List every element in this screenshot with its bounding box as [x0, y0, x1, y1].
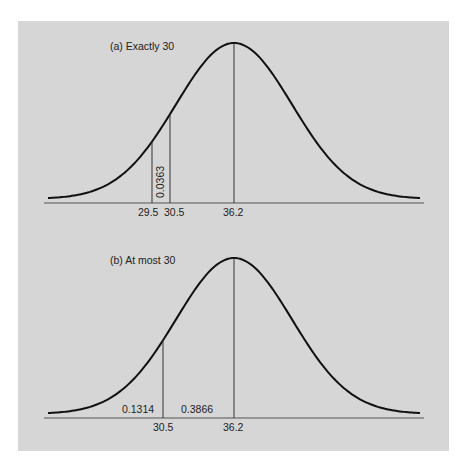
area-label-a: 0.0363 — [154, 166, 166, 198]
area-label-left: 0.1314 — [122, 403, 154, 415]
tick-label-30-5: 30.5 — [164, 206, 185, 218]
chart-a-title: (a) Exactly 30 — [110, 40, 174, 52]
tick-label-36-2-b: 36.2 — [223, 421, 244, 433]
chart-a: (a) Exactly 30 0.0363 29.5 30.5 36.2 — [44, 40, 424, 218]
normal-curves-figure: (a) Exactly 30 0.0363 29.5 30.5 36.2 (b)… — [0, 0, 467, 465]
tick-label-30-5-b: 30.5 — [153, 421, 174, 433]
tick-label-29-5: 29.5 — [138, 206, 159, 218]
chart-b-title: (b) At most 30 — [110, 254, 176, 266]
chart-b: (b) At most 30 0.1314 0.3866 30.5 36.2 — [44, 254, 424, 433]
tick-label-36-2-a: 36.2 — [223, 206, 244, 218]
area-label-mid: 0.3866 — [181, 403, 213, 415]
